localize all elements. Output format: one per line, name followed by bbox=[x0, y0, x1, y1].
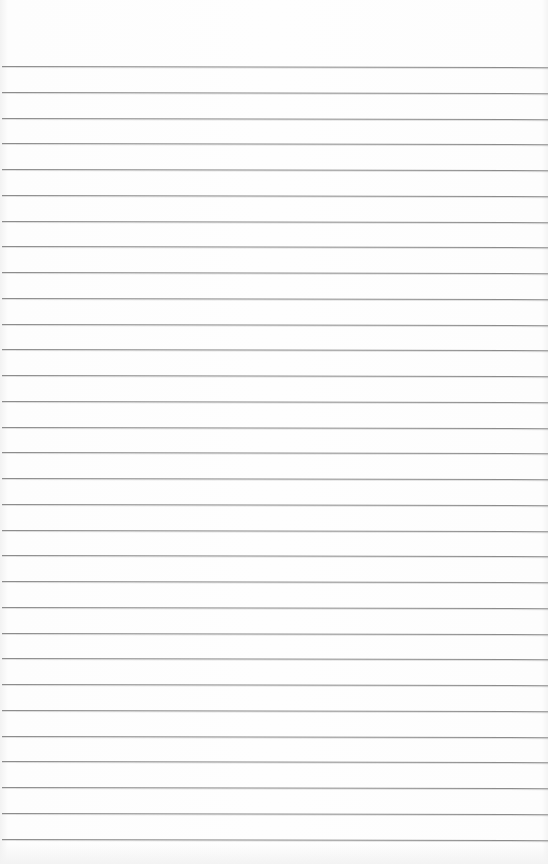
ruled-line bbox=[2, 684, 548, 686]
ruled-line bbox=[2, 298, 548, 300]
ruled-line bbox=[2, 92, 548, 94]
ruled-line bbox=[2, 375, 548, 377]
ruled-line bbox=[2, 839, 548, 841]
ruled-line bbox=[2, 658, 548, 660]
ruled-line bbox=[2, 581, 548, 583]
ruled-line bbox=[2, 427, 548, 429]
ruled-line bbox=[2, 272, 548, 274]
ruled-line bbox=[2, 169, 548, 171]
ruled-line bbox=[2, 710, 548, 712]
ruled-line bbox=[2, 633, 548, 635]
ruled-line bbox=[2, 195, 548, 197]
ruled-line bbox=[2, 787, 548, 789]
ruled-line bbox=[2, 349, 548, 351]
ruled-line bbox=[2, 530, 548, 532]
ruled-line bbox=[2, 221, 548, 223]
ruled-line bbox=[2, 324, 548, 326]
ruled-line bbox=[2, 452, 548, 454]
ruled-line bbox=[2, 401, 548, 403]
ruled-line bbox=[2, 66, 548, 68]
ruled-line bbox=[2, 736, 548, 738]
ruled-line bbox=[2, 478, 548, 480]
ruled-line bbox=[2, 118, 548, 120]
ruled-line bbox=[2, 761, 548, 763]
lined-paper-page bbox=[0, 0, 548, 864]
ruled-line bbox=[2, 813, 548, 815]
ruled-line bbox=[2, 504, 548, 506]
page-header-blank bbox=[0, 0, 548, 60]
ruled-line bbox=[2, 555, 548, 557]
ruled-line bbox=[2, 246, 548, 248]
ruled-line bbox=[2, 143, 548, 145]
ruled-line bbox=[2, 607, 548, 609]
page-bottom-edge bbox=[0, 844, 548, 864]
